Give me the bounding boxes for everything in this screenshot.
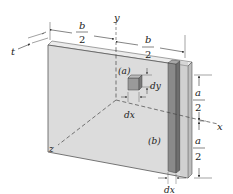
plate-front-face: [48, 45, 188, 178]
cube-element-a: [128, 75, 142, 90]
two-label-bottom: 2: [195, 151, 201, 162]
plate-diagram: y z x t b 2 b 2 a 2: [0, 0, 233, 194]
a-label-top: a: [195, 87, 201, 98]
z-axis-label: z: [48, 144, 54, 154]
a-label-bottom: a: [195, 135, 201, 146]
two-label-top: 2: [195, 102, 201, 113]
b-label-right: b: [145, 34, 151, 45]
x-axis-label: x: [217, 121, 223, 132]
plate-right-edge: [188, 62, 192, 178]
two-label-left: 2: [79, 34, 85, 45]
element-b-label: (b): [148, 136, 161, 146]
dimension-b-half-left: b 2: [50, 20, 114, 45]
dimension-a-half: a 2 a 2: [193, 75, 212, 178]
element-a-label: (a): [118, 66, 131, 76]
thickness-label: t: [11, 46, 16, 57]
element-a-dy-label: dy: [150, 81, 162, 91]
strip-element-b: [168, 60, 188, 178]
y-axis-label: y: [113, 12, 120, 23]
two-label-right: 2: [145, 49, 151, 60]
element-b-dx-label: dx: [164, 185, 175, 194]
element-a-dx-label: dx: [124, 110, 135, 120]
thickness-dimension: t: [11, 32, 48, 57]
b-label-left: b: [79, 20, 85, 31]
